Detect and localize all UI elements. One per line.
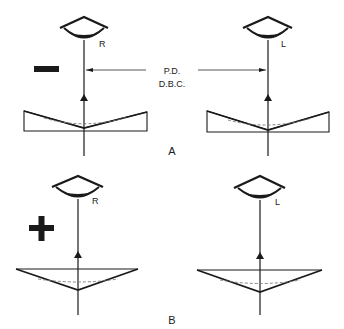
left-eye-icon	[243, 17, 292, 39]
pd-label: P.D.	[164, 66, 180, 76]
left-eye-label: L	[281, 39, 286, 49]
right-eye-icon	[52, 176, 103, 198]
panel-a-label: A	[168, 145, 176, 157]
panel-b-label: B	[168, 314, 175, 326]
right-axis-arrowhead-icon	[74, 251, 82, 258]
right-eye-label: R	[99, 39, 106, 49]
panel-a: R L P.D. D.B.C.	[24, 17, 329, 157]
plus-sign-icon	[29, 216, 54, 241]
left-eye-icon	[234, 176, 285, 199]
diagram-canvas: R L P.D. D.B.C.	[0, 0, 344, 329]
minus-sign-icon	[34, 66, 59, 72]
right-eye-icon	[60, 17, 108, 39]
left-eye-label: L	[275, 197, 280, 207]
right-prism-b	[16, 269, 138, 290]
left-axis-arrowhead-icon	[264, 94, 272, 101]
panel-b: R L	[16, 176, 322, 326]
dbc-label: D.B.C.	[159, 79, 186, 89]
diagram: R L P.D. D.B.C.	[0, 0, 344, 329]
right-prism-a	[24, 111, 147, 131]
right-eye-label: R	[92, 196, 99, 206]
right-axis-arrowhead-icon	[80, 94, 88, 101]
left-axis-arrowhead-icon	[256, 252, 264, 259]
